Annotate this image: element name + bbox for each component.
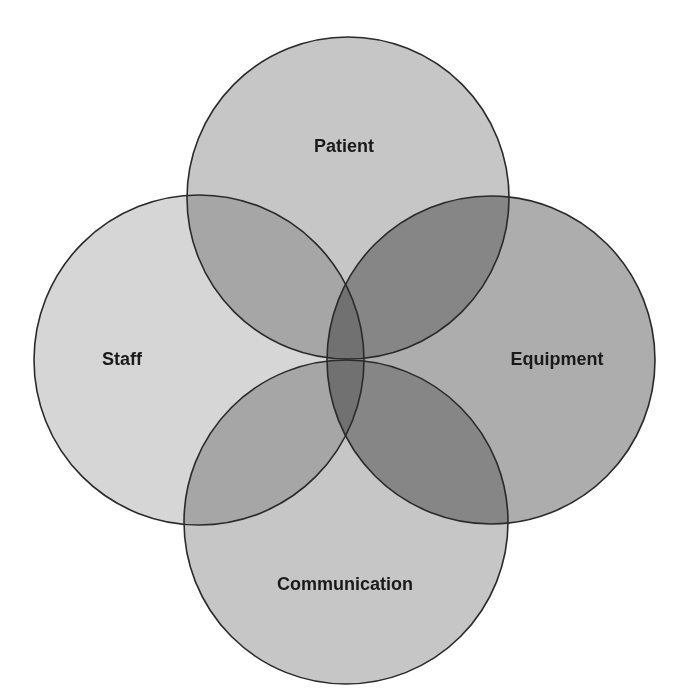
- patient-label: Patient: [314, 136, 374, 156]
- communication-label: Communication: [277, 574, 413, 594]
- staff-label: Staff: [102, 349, 143, 369]
- venn-diagram: Patient Staff Equipment Communication: [0, 0, 677, 699]
- equipment-label: Equipment: [511, 349, 604, 369]
